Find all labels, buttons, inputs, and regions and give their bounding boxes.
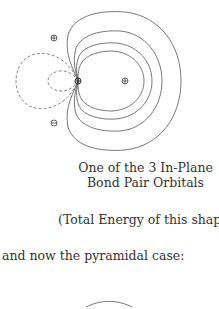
orbital-contour-diagram xyxy=(0,0,219,160)
figure-caption-line-1: One of the 3 In-Plane xyxy=(72,160,219,175)
nucleus-marker-top xyxy=(51,35,57,41)
solid-contour-3 xyxy=(77,43,152,119)
pyramidal-diagram-partial xyxy=(0,290,219,309)
central-atom-marker xyxy=(75,78,81,84)
dashed-contour-inner xyxy=(48,71,78,91)
figure-caption-line-2: Bond Pair Orbitals xyxy=(72,175,219,190)
nucleus-marker-bottom xyxy=(51,120,57,126)
solid-contour-2 xyxy=(74,31,162,131)
partial-contour-top xyxy=(86,301,132,307)
solid-contour-4 xyxy=(78,51,144,111)
energy-note: (Total Energy of this shape xyxy=(58,212,219,227)
nucleus-marker-right xyxy=(122,78,128,84)
transition-text: and now the pyramidal case: xyxy=(2,248,184,263)
dashed-contour-outer xyxy=(16,53,78,108)
